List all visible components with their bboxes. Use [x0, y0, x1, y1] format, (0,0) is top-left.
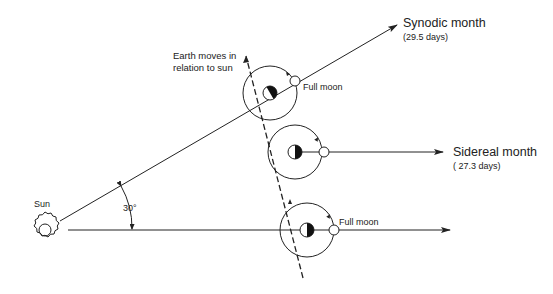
sidereal-month-days: ( 27.3 days) — [453, 162, 501, 171]
sidereal-month-title: Sidereal month — [453, 146, 537, 159]
full-moon-label-bottom: Full moon — [339, 218, 379, 227]
earth-path-arrowhead — [243, 56, 249, 63]
earth-motion-line-2: relation to sun — [173, 62, 236, 74]
sun-label: Sun — [34, 200, 50, 209]
synodic-month-days: (29.5 days) — [403, 33, 448, 42]
angle-label: 30° — [123, 204, 137, 213]
sun-icon — [34, 212, 59, 237]
earth-position-sidereal — [268, 125, 329, 179]
earth-motion-line-1: Earth moves in — [173, 50, 236, 62]
earth-motion-label: Earth moves in relation to sun — [173, 50, 236, 74]
earth-position-synodic — [243, 66, 300, 120]
synodic-month-title: Synodic month — [403, 17, 486, 30]
full-moon-label-top: Full moon — [303, 83, 343, 92]
